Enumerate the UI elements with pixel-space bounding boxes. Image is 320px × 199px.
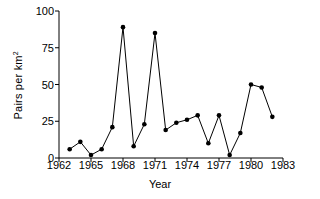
x-tick-label: 1980 bbox=[239, 160, 263, 171]
x-tick-label: 1968 bbox=[111, 160, 135, 171]
data-point bbox=[142, 122, 147, 127]
axes bbox=[55, 11, 283, 162]
x-tick-label: 1974 bbox=[175, 160, 199, 171]
data-point bbox=[99, 147, 104, 152]
data-point bbox=[174, 120, 179, 125]
data-point bbox=[195, 113, 200, 118]
data-point bbox=[153, 31, 158, 36]
x-tick-label: 1971 bbox=[143, 160, 167, 171]
data-point bbox=[67, 147, 72, 152]
data-point bbox=[270, 115, 275, 120]
data-point bbox=[249, 82, 254, 87]
data-point bbox=[238, 131, 243, 136]
x-tick-label: 1962 bbox=[47, 160, 71, 171]
data-point bbox=[259, 85, 264, 90]
data-line bbox=[70, 27, 273, 155]
chart-container: Pairs per km2 0255075100 196219651968197… bbox=[0, 0, 320, 199]
data-point bbox=[131, 144, 136, 149]
y-axis-ticks bbox=[55, 11, 59, 158]
data-point bbox=[89, 153, 94, 158]
data-point bbox=[78, 140, 83, 145]
data-point bbox=[217, 113, 222, 118]
data-point bbox=[163, 128, 168, 133]
data-markers bbox=[67, 25, 274, 157]
data-point bbox=[227, 153, 232, 158]
x-axis-title: Year bbox=[0, 178, 320, 190]
data-point bbox=[121, 25, 126, 30]
x-tick-label: 1983 bbox=[271, 160, 295, 171]
data-point bbox=[185, 117, 190, 122]
data-point bbox=[206, 141, 211, 146]
x-tick-label: 1965 bbox=[79, 160, 103, 171]
x-tick-label: 1977 bbox=[207, 160, 231, 171]
data-point bbox=[110, 125, 115, 130]
